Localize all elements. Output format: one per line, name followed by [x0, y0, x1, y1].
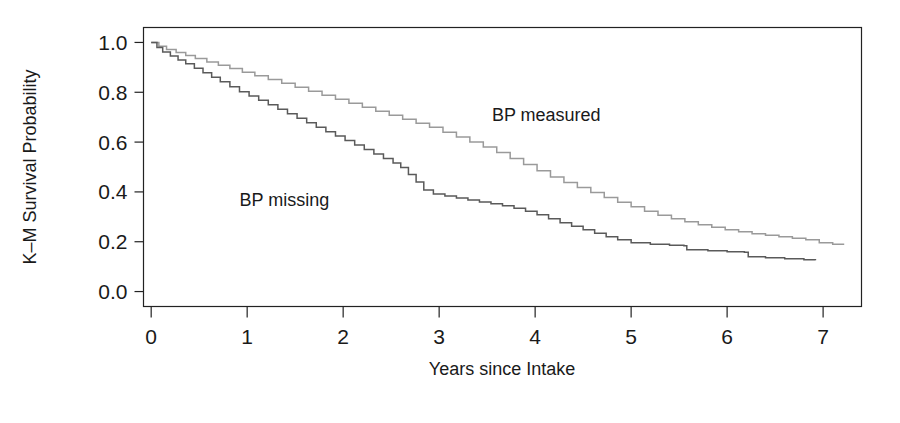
- series-group: [151, 42, 844, 260]
- km-curve-bp-measured: [151, 42, 844, 244]
- y-tick-label: 0.4: [98, 180, 128, 203]
- y-tick-label: 1.0: [98, 31, 127, 54]
- x-axis-title: Years since Intake: [429, 359, 575, 379]
- y-axis-tick-label-group: 0.00.20.40.60.81.0: [98, 31, 128, 303]
- plot-frame-box: [144, 28, 862, 307]
- y-tick-label: 0.8: [98, 81, 127, 104]
- x-tick-label: 5: [625, 325, 637, 348]
- x-tick-label: 1: [241, 325, 253, 348]
- x-tick-label: 3: [433, 325, 445, 348]
- x-tick-label: 2: [337, 325, 349, 348]
- x-axis-tick-label-group: 01234567: [145, 325, 829, 348]
- x-tick-label: 0: [145, 325, 157, 348]
- x-tick-label: 6: [721, 325, 733, 348]
- y-axis-tick-group: [135, 42, 144, 291]
- x-tick-label: 4: [529, 325, 541, 348]
- plot-canvas: 0.00.20.40.60.81.0 01234567 BP measured …: [0, 0, 900, 423]
- y-axis-title: K–M Survival Probability: [20, 69, 40, 264]
- annotation-bp-missing: BP missing: [240, 190, 330, 210]
- annotation-bp-measured: BP measured: [492, 105, 601, 125]
- x-axis-tick-group: [151, 307, 823, 318]
- km-survival-figure: 0.00.20.40.60.81.0 01234567 BP measured …: [0, 0, 900, 423]
- x-tick-label: 7: [817, 325, 829, 348]
- y-tick-label: 0.6: [98, 131, 127, 154]
- y-tick-label: 0.2: [98, 230, 127, 253]
- y-tick-label: 0.0: [98, 280, 127, 303]
